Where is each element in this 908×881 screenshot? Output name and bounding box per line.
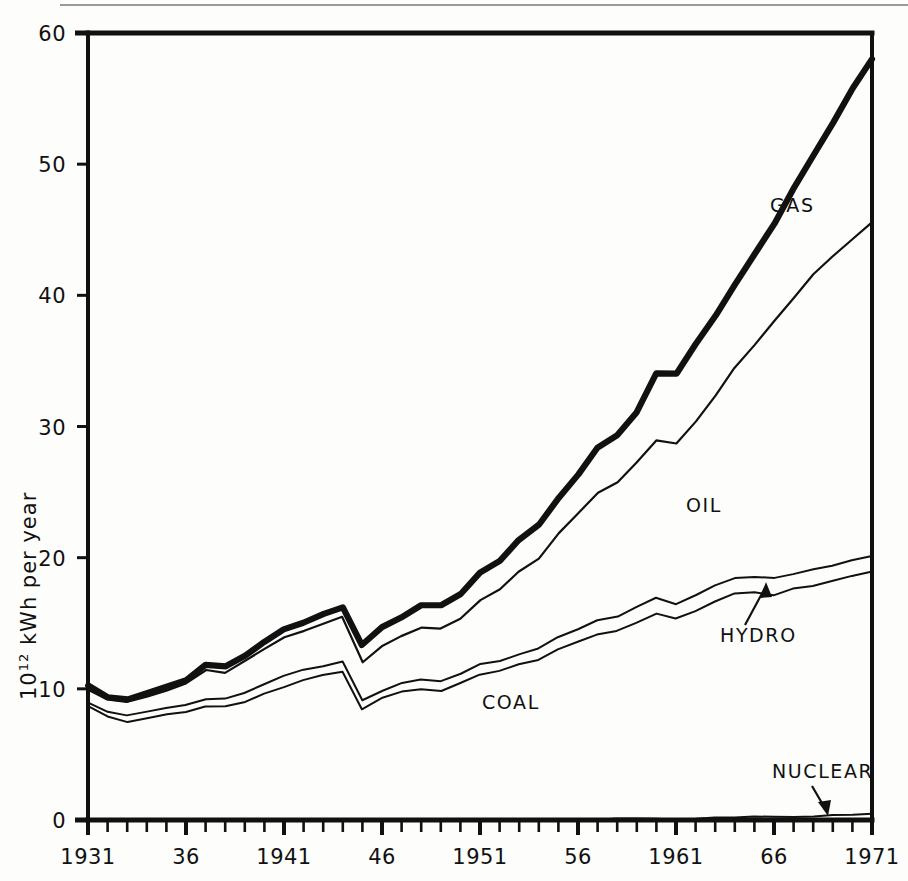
y-axis-title: 1012 kWh per year [16,492,41,700]
y-tick-label-30: 30 [38,416,66,440]
curve-gas [88,59,872,699]
y-tick-label-20: 20 [38,547,66,571]
x-tick-label-46: 46 [368,845,396,869]
curve-annotations: GAS OIL HYDRO COAL NUCLEAR [482,194,873,816]
x-tick-label-66: 66 [760,845,788,869]
label-coal: COAL [482,691,540,713]
x-tick-label-1961: 1961 [648,845,703,869]
y-tick-label-60: 60 [38,22,66,46]
plot-frame [88,33,872,822]
y-tick-label-10: 10 [38,678,66,702]
y-axis-title-base: 10 [17,671,41,700]
x-tick-label-1931: 1931 [60,845,115,869]
y-tick-labels: 0102030405060 [38,22,66,833]
x-tick-label-1951: 1951 [452,845,507,869]
svg-text:1012 kWh per year: 1012 kWh per year [16,492,41,700]
label-nuclear: NUCLEAR [772,760,873,782]
chart-figure: 0102030405060 19313619414619515619616619… [0,0,908,881]
x-tick-label-36: 36 [172,845,200,869]
x-tick-label-1971: 1971 [844,845,899,869]
hydro-leader-arrow [745,582,772,625]
page-rule-line [60,4,908,6]
label-hydro: HYDRO [720,624,797,646]
y-tick-label-0: 0 [52,809,66,833]
label-gas: GAS [770,194,815,216]
y-tick-label-40: 40 [38,284,66,308]
y-axis-title-exponent: 12 [16,653,31,672]
y-tick-label-50: 50 [38,153,66,177]
y-axis-title-unit: kWh per year [17,492,41,653]
x-tick-label-56: 56 [564,845,592,869]
series-curves [87,59,872,821]
label-oil: OIL [686,494,722,516]
energy-consumption-chart: 0102030405060 19313619414619515619616619… [0,0,908,881]
x-tick-label-1941: 1941 [256,845,311,869]
nuclear-leader-arrow [812,786,831,816]
nuclear-arrowhead [818,800,831,816]
x-tick-labels: 1931361941461951561961661971 [60,845,899,869]
hydro-arrowhead [760,582,772,598]
